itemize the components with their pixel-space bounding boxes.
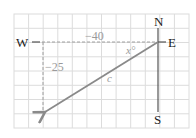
north-label: N	[154, 15, 163, 28]
vector-diagram	[0, 0, 196, 138]
east-label: E	[168, 36, 176, 49]
vertical-component-label: −25	[45, 61, 64, 73]
west-label: W	[16, 36, 28, 49]
resultant-label: c	[107, 73, 112, 84]
south-label: S	[154, 113, 161, 126]
angle-label: x°	[126, 45, 135, 56]
horizontal-component-label: −40	[85, 30, 104, 42]
